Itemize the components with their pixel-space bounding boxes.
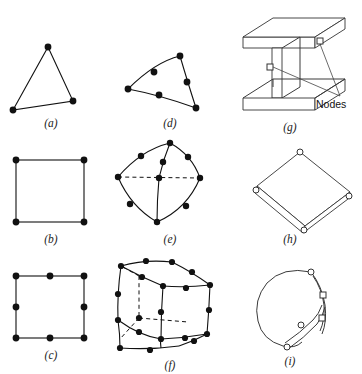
tet-edge: [157, 178, 159, 222]
node-marker: [47, 335, 54, 342]
panel-caption-e: (e): [164, 233, 177, 246]
node-marker: [298, 322, 304, 328]
panel-caption-h: (h): [283, 233, 297, 246]
node-marker: [253, 187, 259, 193]
node-marker: [185, 154, 191, 160]
node-marker: [197, 175, 203, 181]
node-marker: [47, 273, 54, 280]
node-marker: [156, 92, 163, 99]
node-marker: [81, 157, 88, 164]
panel-d-curved-triangle: (d): [125, 53, 200, 130]
node-marker: [127, 201, 133, 207]
node-marker: [319, 315, 325, 321]
node-marker: [118, 263, 124, 269]
node-marker: [136, 329, 142, 335]
tet-edge: [170, 143, 200, 178]
quad-edges: [16, 160, 84, 222]
panel-caption-i: (i): [285, 355, 296, 368]
node-marker: [13, 304, 20, 311]
node-marker: [160, 283, 166, 289]
ibeam-web-front: [272, 48, 282, 98]
node-marker: [81, 304, 88, 311]
node-marker: [297, 149, 303, 155]
node-marker: [45, 44, 52, 51]
panel-f-curved-hexahedron: (f): [115, 258, 213, 372]
node-marker: [184, 79, 191, 86]
node-marker: [156, 175, 162, 181]
node-marker: [154, 219, 160, 225]
node-marker: [191, 338, 197, 344]
node-marker: [125, 86, 132, 93]
shell-top-surface: [257, 152, 350, 226]
panel-caption-g: (g): [283, 121, 297, 134]
node-marker: [160, 159, 166, 165]
node-marker: [138, 153, 144, 159]
node-marker: [81, 335, 88, 342]
node-marker: [13, 219, 20, 226]
finite-element-figure: (a) (b) (c) (d): [0, 0, 362, 374]
node-marker: [158, 309, 164, 315]
node-marker: [117, 345, 123, 351]
node-marker: [81, 273, 88, 280]
hidden-edge: [120, 318, 139, 339]
panel-b-linear-quad: (b): [13, 157, 88, 246]
panel-caption-c: (c): [45, 349, 58, 362]
node-marker: [13, 273, 20, 280]
hidden-edge: [139, 318, 188, 322]
tet-edge: [157, 178, 200, 222]
node-marker: [189, 269, 195, 275]
node-marker: [115, 291, 121, 297]
node-marker: [13, 335, 20, 342]
node-marker: [301, 227, 307, 233]
figure-container: (a) (b) (c) (d): [0, 0, 362, 374]
node-marker: [308, 269, 314, 275]
panel-caption-a: (a): [44, 117, 58, 130]
leader-line: [273, 67, 340, 96]
curved-shell-band-inner: [288, 307, 325, 349]
node-marker: [158, 336, 164, 342]
node-marker: [182, 335, 188, 341]
panel-g-ibeam: Nodes (g): [243, 18, 346, 134]
node-marker: [284, 344, 290, 350]
node-marker: [115, 317, 121, 323]
nodes-annotation-label: Nodes: [316, 98, 346, 110]
panel-caption-b: (b): [44, 233, 58, 246]
node-marker: [183, 285, 189, 291]
node-marker: [177, 53, 184, 60]
ibeam-web-edge: [282, 87, 300, 98]
ibeam-bottom-flange-front: [243, 98, 315, 110]
node-marker: [13, 157, 20, 164]
node-marker: [320, 292, 326, 298]
panel-c-quadratic-quad: (c): [13, 273, 88, 362]
triangle-curved-edge: [128, 89, 196, 108]
panel-caption-d: (d): [163, 117, 177, 130]
node-marker: [206, 307, 212, 313]
triangle-edges: [13, 47, 73, 110]
node-marker: [204, 331, 210, 337]
node-marker: [207, 282, 213, 288]
hex-edge: [118, 320, 120, 348]
node-marker: [139, 274, 145, 280]
panel-h-flat-shell: (h): [253, 149, 352, 246]
node-marker: [147, 347, 153, 353]
panel-caption-f: (f): [165, 359, 176, 372]
node-marker: [167, 140, 173, 146]
node-marker: [10, 107, 17, 114]
node-marker: [143, 258, 149, 264]
node-marker: [183, 203, 189, 209]
panel-e-curved-tetrahedron: (e): [115, 140, 203, 246]
node-marker: [267, 64, 273, 70]
panel-a-linear-triangle: (a): [10, 44, 77, 130]
node-marker: [151, 69, 158, 76]
tet-edge: [118, 177, 157, 222]
ibeam-top-flange-front: [243, 37, 315, 48]
node-marker: [317, 38, 323, 44]
node-marker: [81, 219, 88, 226]
node-marker: [346, 193, 352, 199]
node-marker: [115, 174, 121, 180]
panel-i-curved-shell: (i): [257, 269, 326, 368]
node-marker: [136, 315, 142, 321]
quad-edges: [16, 276, 84, 338]
node-marker: [70, 98, 77, 105]
curved-shell-outer: [257, 270, 311, 346]
